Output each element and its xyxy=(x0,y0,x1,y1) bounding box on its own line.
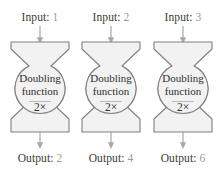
output-arrow xyxy=(146,131,220,149)
input-value: 3 xyxy=(196,11,202,23)
funnel-machine-icon xyxy=(78,40,144,134)
output-label-text: Output: xyxy=(89,152,125,164)
arrow-down-icon xyxy=(34,131,46,149)
machine-column: Input: 2 Doubling function 2× xyxy=(74,0,148,171)
output-arrow xyxy=(74,131,148,149)
output-label-text: Output: xyxy=(18,152,54,164)
diagram-canvas: Input: 1 Doubling function 2× xyxy=(0,0,222,171)
machine-shape xyxy=(146,40,220,134)
funnel-machine-icon xyxy=(7,40,73,134)
input-value: 2 xyxy=(124,11,130,23)
machine-column: Input: 3 Doubling function 2× xyxy=(146,0,220,171)
input-value: 1 xyxy=(53,11,59,23)
input-label-text: Input: xyxy=(22,11,50,23)
output-label-text: Output: xyxy=(161,152,197,164)
input-label: Input: 2 xyxy=(74,11,148,23)
input-label: Input: 1 xyxy=(3,11,77,23)
arrow-down-icon xyxy=(177,131,189,149)
output-label: Output: 2 xyxy=(3,152,77,164)
arrow-down-icon xyxy=(105,131,117,149)
output-label: Output: 4 xyxy=(74,152,148,164)
output-value: 2 xyxy=(56,152,62,164)
output-value: 6 xyxy=(199,152,205,164)
output-label: Output: 6 xyxy=(146,152,220,164)
output-arrow xyxy=(3,131,77,149)
machine-column: Input: 1 Doubling function 2× xyxy=(3,0,77,171)
input-label-text: Input: xyxy=(93,11,121,23)
input-label-text: Input: xyxy=(165,11,193,23)
output-value: 4 xyxy=(127,152,133,164)
machine-shape xyxy=(3,40,77,134)
input-label: Input: 3 xyxy=(146,11,220,23)
funnel-machine-icon xyxy=(150,40,216,134)
machine-shape xyxy=(74,40,148,134)
